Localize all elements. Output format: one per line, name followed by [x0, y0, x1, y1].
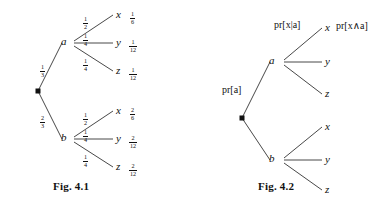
edge-root-to-a-fig2 — [242, 62, 270, 118]
fraction-denominator: 12 — [129, 171, 137, 178]
leaf-y-b-fig2: y — [325, 154, 330, 165]
edge-weight-a-x-fig1: 1 2 — [83, 14, 88, 31]
leaf-value-x-a-fig1: 1 6 — [130, 9, 135, 26]
fraction-denominator: 12 — [129, 75, 137, 82]
edge-a-to-z-fig2 — [284, 65, 322, 94]
leaf-y-a-fig1: y — [116, 37, 121, 48]
edge-a-to-z-fig1 — [74, 46, 113, 71]
fraction-denominator: 4 — [83, 41, 88, 48]
leaf-y-a-fig2: y — [325, 56, 330, 67]
root-node-fig2 — [240, 116, 245, 121]
leaf-x-b-fig1: x — [116, 105, 121, 116]
leaf-x-b-fig2: x — [325, 121, 330, 132]
node-a-fig2: a — [269, 55, 275, 66]
caption-fig-4-2: Fig. 4.2 — [258, 180, 294, 192]
edge-label-pr-x-given-a-fig2: pr[x|a] — [274, 20, 300, 30]
edge-root-to-b-fig2 — [242, 118, 270, 160]
leaf-value-y-b-fig1: 2 12 — [129, 133, 137, 150]
leaf-x-a-fig1: x — [116, 9, 121, 20]
fraction: 2 12 — [129, 135, 137, 149]
leaf-value-pr-x-and-a-fig2: pr[x∧a] — [336, 21, 368, 31]
edge-weight-b-z-fig1: 1 4 — [83, 152, 88, 169]
fraction: 1 12 — [129, 67, 137, 81]
fraction-denominator: 3 — [40, 72, 45, 79]
fraction: 1 4 — [83, 58, 88, 72]
edge-weight-a-z-fig1: 1 4 — [83, 56, 88, 73]
edge-a-to-x-fig1 — [74, 15, 113, 41]
leaf-z-a-fig2: z — [325, 88, 329, 99]
leaf-x-a-fig2: x — [325, 22, 330, 33]
leaf-y-b-fig1: y — [116, 133, 121, 144]
fraction-denominator: 4 — [83, 137, 88, 144]
node-b-fig2: b — [269, 153, 275, 164]
edge-label-pr-a-fig2: pr[a] — [222, 85, 241, 95]
caption-fig-4-1: Fig. 4.1 — [53, 180, 89, 192]
edge-b-to-x-fig2 — [284, 127, 322, 158]
fraction-denominator: 2 — [83, 24, 88, 31]
root-node-fig1 — [36, 89, 41, 94]
fraction: 1 12 — [129, 39, 137, 53]
node-a-fig1: a — [61, 36, 67, 47]
fraction-denominator: 2 — [83, 120, 88, 127]
fraction: 1 4 — [83, 154, 88, 168]
leaf-value-y-a-fig1: 1 12 — [129, 37, 137, 54]
fraction-denominator: 12 — [129, 47, 137, 54]
fraction-denominator: 4 — [83, 66, 88, 73]
node-b-fig1: b — [61, 132, 67, 143]
edge-weight-root-b-fig1: 2 3 — [40, 113, 45, 130]
fraction-one-third: 1 3 — [40, 64, 45, 78]
fraction-denominator: 12 — [129, 143, 137, 150]
leaf-value-x-b-fig1: 2 6 — [130, 105, 135, 122]
fraction-denominator: 6 — [130, 19, 135, 26]
leaf-value-z-a-fig1: 1 12 — [129, 65, 137, 82]
fraction: 2 6 — [130, 107, 135, 121]
fraction: 1 2 — [83, 16, 88, 30]
edge-weight-a-y-fig1: 1 4 — [83, 31, 88, 48]
fraction-two-thirds: 2 3 — [40, 115, 45, 129]
fraction: 1 4 — [83, 129, 88, 143]
edge-weight-b-x-fig1: 1 2 — [83, 110, 88, 127]
leaf-value-z-b-fig1: 2 12 — [129, 161, 137, 178]
fraction: 1 2 — [83, 112, 88, 126]
fraction: 1 4 — [83, 33, 88, 47]
edge-weight-b-y-fig1: 1 4 — [83, 127, 88, 144]
edge-weight-root-a-fig1: 1 3 — [40, 62, 45, 79]
fraction: 2 12 — [129, 163, 137, 177]
edge-a-to-x-fig2 — [284, 28, 322, 60]
fraction-denominator: 6 — [130, 115, 135, 122]
fraction-denominator: 4 — [83, 162, 88, 169]
edge-b-to-z-fig1 — [74, 142, 113, 167]
leaf-z-b-fig2: z — [325, 184, 329, 195]
edge-b-to-x-fig1 — [74, 111, 113, 137]
fraction: 1 6 — [130, 11, 135, 25]
leaf-z-b-fig1: z — [116, 161, 120, 172]
fraction-denominator: 3 — [40, 123, 45, 130]
leaf-z-a-fig1: z — [116, 65, 120, 76]
